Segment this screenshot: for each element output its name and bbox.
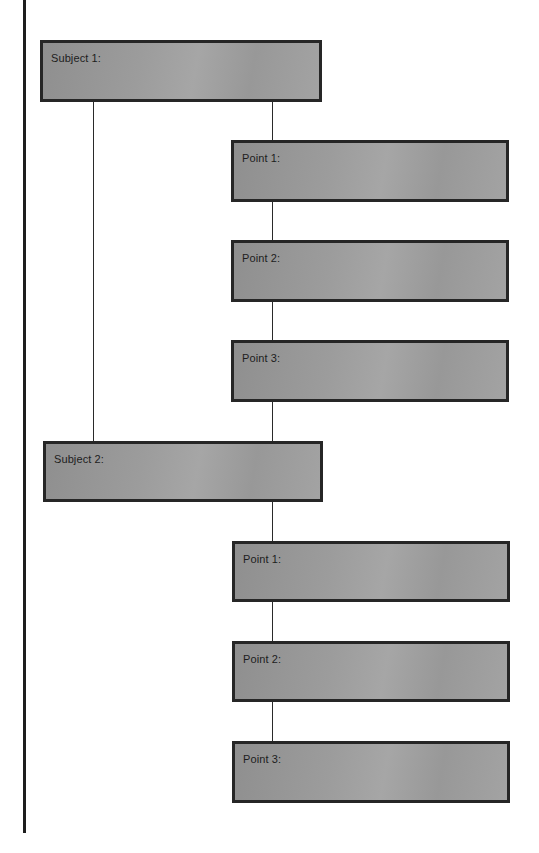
subject-2-point-1-box: Point 1: xyxy=(232,541,510,602)
connector-s1-point2-to-point3 xyxy=(272,301,273,341)
point-label: Point 1: xyxy=(243,553,281,565)
subject-1-point-3-box: Point 3: xyxy=(231,340,509,402)
point-label: Point 2: xyxy=(242,252,280,264)
page-margin-rule xyxy=(23,0,26,833)
connector-s2-point2-to-point3 xyxy=(272,701,273,742)
connector-subject1-to-point1 xyxy=(272,101,273,141)
subject-2-box: Subject 2: xyxy=(43,441,323,502)
subject-1-box: Subject 1: xyxy=(40,40,322,102)
subject-2-point-2-box: Point 2: xyxy=(232,641,510,702)
connector-s2-point1-to-point2 xyxy=(272,601,273,642)
connector-subject1-to-subject2 xyxy=(93,101,94,442)
subject-2-label: Subject 2: xyxy=(54,453,104,465)
point-label: Point 2: xyxy=(243,653,281,665)
connector-s1-point3-to-subject2 xyxy=(272,401,273,442)
subject-2-point-3-box: Point 3: xyxy=(232,741,510,803)
point-label: Point 3: xyxy=(242,352,280,364)
connector-subject2-to-point1 xyxy=(272,501,273,542)
point-label: Point 1: xyxy=(242,152,280,164)
subject-1-point-2-box: Point 2: xyxy=(231,240,509,302)
point-label: Point 3: xyxy=(243,753,281,765)
connector-s1-point1-to-point2 xyxy=(272,201,273,241)
subject-1-point-1-box: Point 1: xyxy=(231,140,509,202)
subject-1-label: Subject 1: xyxy=(51,52,101,64)
